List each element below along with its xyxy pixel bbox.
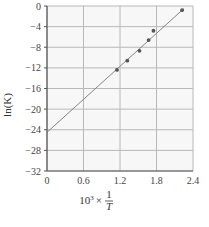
- data-point: [125, 59, 129, 63]
- data-point: [115, 68, 119, 72]
- y-tick-labels: 0−4−8−12−16−20−24−28−32: [25, 1, 41, 177]
- x-tick-labels: 00.61.21.82.4: [45, 175, 200, 186]
- y-tick-label: −24: [25, 124, 41, 135]
- svg-text:T: T: [106, 200, 113, 212]
- x-tick-label: 2.4: [187, 175, 200, 186]
- data-point: [152, 29, 156, 33]
- y-tick-label: −20: [25, 104, 41, 115]
- y-tick-label: −28: [25, 145, 41, 156]
- chart: 0−4−8−12−16−20−24−28−32 00.61.21.82.4 ln…: [0, 0, 209, 227]
- y-tick-label: −16: [25, 83, 41, 94]
- x-tick-label: 1.8: [150, 175, 163, 186]
- x-tick-label: 0: [45, 175, 50, 186]
- y-tick-label: −32: [25, 166, 41, 177]
- y-axis-label: ln(K): [1, 93, 14, 117]
- x-tick-label: 1.2: [114, 175, 127, 186]
- y-tick-label: −12: [25, 62, 41, 73]
- data-point: [147, 38, 151, 42]
- svg-text:103×: 103×: [79, 194, 102, 206]
- x-tick-label: 0.6: [77, 175, 90, 186]
- x-axis-label: 103× 1 T: [79, 188, 113, 212]
- data-point: [180, 8, 184, 12]
- data-point: [138, 49, 142, 53]
- y-tick-label: −8: [30, 42, 41, 53]
- y-tick-label: 0: [36, 1, 41, 12]
- svg-text:1: 1: [106, 188, 112, 200]
- y-tick-label: −4: [30, 21, 41, 32]
